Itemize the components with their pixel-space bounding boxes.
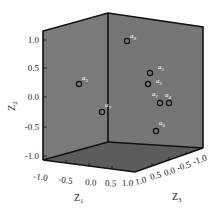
y-tick: 1.0 (28, 35, 40, 45)
x-tick: -0.5 (58, 174, 74, 186)
z-tick: 0.0 (163, 165, 177, 178)
y-axis-label: Z2 (6, 101, 19, 111)
y-tick: -1.0 (25, 151, 40, 161)
y-tick: 0.5 (28, 63, 40, 73)
x-axis-label: Z1 (74, 192, 84, 205)
z-tick: 1.0 (134, 174, 148, 187)
x-tick: 0.5 (105, 178, 117, 188)
z-tick: -0.5 (176, 159, 193, 173)
z-tick: -1.0 (191, 152, 208, 166)
z-axis-label: Z3 (172, 191, 182, 204)
x-tick: 1.0 (122, 178, 134, 188)
y-axis: 1.0 0.5 0.0 -0.5 -1.0 Z2 (6, 35, 47, 161)
left-wall (43, 13, 108, 160)
y-tick: 0.0 (28, 92, 40, 102)
y-tick: -0.5 (25, 122, 40, 132)
z-tick: 0.5 (149, 169, 163, 182)
scatter-3d-chart: 1.0 0.5 0.0 -0.5 -1.0 Z2 -1.0 -0.5 0.0 0… (0, 0, 220, 210)
x-tick: -1.0 (33, 171, 49, 183)
x-tick: 0.0 (85, 177, 97, 188)
